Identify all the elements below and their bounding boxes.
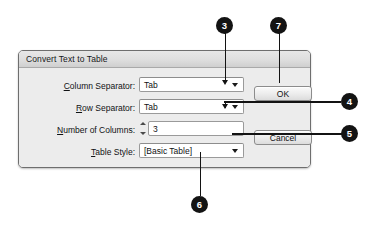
number-of-columns-stepper[interactable]: 3: [139, 121, 244, 136]
callout-3-leader-line: [225, 32, 227, 82]
callout-marker-7: 7: [270, 17, 287, 34]
callout-6-leader-line: [200, 152, 202, 196]
chevron-down-icon[interactable]: [232, 83, 238, 87]
column-separator-label: Column Separator:: [64, 81, 135, 91]
callout-marker-6: 6: [191, 196, 208, 213]
stepper-buttons[interactable]: [139, 121, 147, 136]
number-of-columns-input[interactable]: 3: [148, 121, 244, 136]
column-separator-dropdown[interactable]: Tab: [139, 77, 244, 92]
form-row-column-separator: Column Separator: Tab OK: [19, 77, 310, 98]
callout-7-leader-line: [279, 32, 281, 83]
callout-4-arrowhead: [222, 104, 228, 109]
stepper-down-icon[interactable]: [140, 132, 146, 135]
number-of-columns-value: 3: [153, 124, 158, 134]
stepper-up-icon[interactable]: [140, 122, 146, 125]
form-row-table-style: Table Style: [Basic Table]: [19, 143, 310, 164]
column-separator-value: Tab: [144, 80, 158, 90]
row-separator-label: Row Separator:: [76, 103, 135, 113]
chevron-down-icon[interactable]: [232, 149, 238, 153]
table-style-value: [Basic Table]: [144, 146, 192, 156]
callout-marker-5: 5: [341, 125, 358, 142]
number-of-columns-label: Number of Columns:: [57, 125, 135, 135]
callout-3-arrowhead: [222, 80, 228, 85]
chevron-down-icon[interactable]: [232, 105, 238, 109]
dialog-title: Convert Text to Table: [26, 54, 108, 64]
callout-marker-3: 3: [216, 17, 233, 34]
form-row-number-of-columns: Number of Columns: 3: [19, 121, 310, 142]
table-style-dropdown[interactable]: [Basic Table]: [139, 143, 244, 158]
callout-5-leader-line: [232, 133, 342, 135]
convert-text-to-table-dialog: Convert Text to Table Column Separator: …: [18, 50, 311, 168]
screenshot-canvas: Convert Text to Table Column Separator: …: [0, 0, 374, 225]
dialog-title-bar[interactable]: Convert Text to Table: [19, 51, 310, 68]
callout-marker-4: 4: [341, 93, 358, 110]
row-separator-value: Tab: [144, 102, 158, 112]
table-style-label: Table Style:: [91, 147, 135, 157]
dialog-body: Column Separator: Tab OK Row Separator: …: [19, 68, 310, 167]
callout-4-leader-line: [224, 101, 341, 103]
